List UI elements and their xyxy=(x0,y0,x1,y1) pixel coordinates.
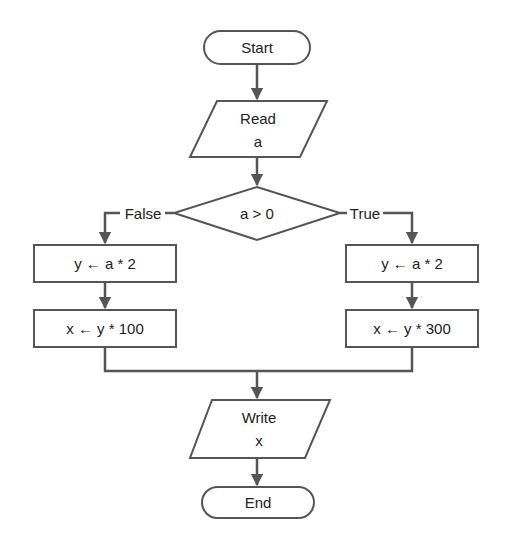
true-step2-process: x ← y * 300 xyxy=(346,310,478,347)
end-label: End xyxy=(245,494,272,511)
end-terminator: End xyxy=(202,487,314,518)
write-variable: x xyxy=(255,432,263,449)
false-step1-process: y ← a * 2 xyxy=(34,245,176,282)
false-branch-connector: False xyxy=(105,205,174,243)
true-step2-label: x ← y * 300 xyxy=(373,320,451,337)
false-step2-process: x ← y * 100 xyxy=(34,310,176,347)
flowchart: Start Read a a > 0 False True y ← a * 2 … xyxy=(0,0,510,550)
start-terminator: Start xyxy=(204,31,310,64)
true-step1-process: y ← a * 2 xyxy=(346,245,478,282)
false-step2-label: x ← y * 100 xyxy=(66,320,144,337)
merge-connector xyxy=(105,347,412,371)
read-label: Read xyxy=(240,110,276,127)
true-branch-connector: True xyxy=(340,205,412,243)
decision-node: a > 0 xyxy=(174,187,340,240)
false-step1-label: y ← a * 2 xyxy=(74,255,136,272)
false-label: False xyxy=(125,205,162,222)
read-variable: a xyxy=(254,133,263,150)
read-input-node: Read a xyxy=(190,101,327,157)
write-label: Write xyxy=(242,409,277,426)
write-output-node: Write x xyxy=(190,400,330,458)
true-label: True xyxy=(350,205,380,222)
true-step1-label: y ← a * 2 xyxy=(381,255,443,272)
decision-condition: a > 0 xyxy=(240,205,274,222)
start-label: Start xyxy=(241,39,274,56)
